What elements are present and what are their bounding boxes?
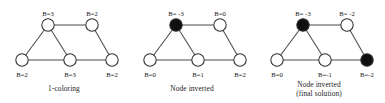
panel-node-inverted: B= -3B=0B=0B=1B=2Node inverted	[128, 0, 256, 103]
graph-node-bottom-middle	[319, 54, 331, 66]
graph-node-top-left	[297, 19, 309, 31]
node-value-label: B=0	[144, 71, 156, 78]
node-value-label: B= -2	[339, 10, 355, 17]
graph-node-bottom-left	[16, 54, 28, 66]
node-value-label: B=2	[86, 10, 98, 17]
graph-node-bottom-right	[361, 54, 373, 66]
node-value-label: B=-1	[318, 71, 332, 78]
graph-node-bottom-middle	[192, 54, 204, 66]
panel-caption-line: (final solution)	[255, 89, 383, 98]
graph-node-bottom-middle	[64, 54, 76, 66]
graph-coloring-figure: B=3B=2B=2B=3B=21-coloring B= -3B=0B=0B=1…	[0, 0, 385, 103]
panel-caption: 1-coloring	[0, 84, 128, 93]
node-value-label: B=2	[234, 71, 246, 78]
node-value-label: B=3	[42, 10, 54, 17]
graph-node-bottom-left	[144, 54, 156, 66]
graph-node-bottom-left	[271, 54, 283, 66]
node-value-label: B=0	[271, 71, 283, 78]
node-value-label: B=1	[192, 71, 204, 78]
graph-node-bottom-right	[106, 54, 118, 66]
node-value-label: B=3	[64, 71, 76, 78]
panel-caption-line: Node inverted	[255, 80, 383, 89]
graph-node-top-right	[86, 19, 98, 31]
node-value-label: B=2	[106, 71, 118, 78]
graph-node-top-left	[170, 19, 182, 31]
panel-caption-line: 1-coloring	[0, 84, 128, 93]
panel-caption: Node inverted	[128, 84, 256, 93]
node-value-label: B= -3	[295, 10, 311, 17]
graph-node-top-right	[341, 19, 353, 31]
node-value-label: B=0	[214, 10, 226, 17]
panel-1-coloring: B=3B=2B=2B=3B=21-coloring	[0, 0, 128, 103]
node-value-label: B=2	[16, 71, 28, 78]
node-value-label: B=-2	[360, 71, 374, 78]
panel-caption-line: Node inverted	[128, 84, 256, 93]
graph-diagram: B= -3B= -2B=0B=-1B=-2	[255, 0, 383, 82]
node-value-label: B= -3	[168, 10, 184, 17]
graph-node-bottom-right	[234, 54, 246, 66]
graph-diagram: B= -3B=0B=0B=1B=2	[128, 0, 256, 82]
graph-node-top-left	[42, 19, 54, 31]
graph-diagram: B=3B=2B=2B=3B=2	[0, 0, 128, 82]
panel-node-inverted-final: B= -3B= -2B=0B=-1B=-2Node inverted(final…	[255, 0, 383, 103]
graph-node-top-right	[214, 19, 226, 31]
panel-caption: Node inverted(final solution)	[255, 80, 383, 98]
